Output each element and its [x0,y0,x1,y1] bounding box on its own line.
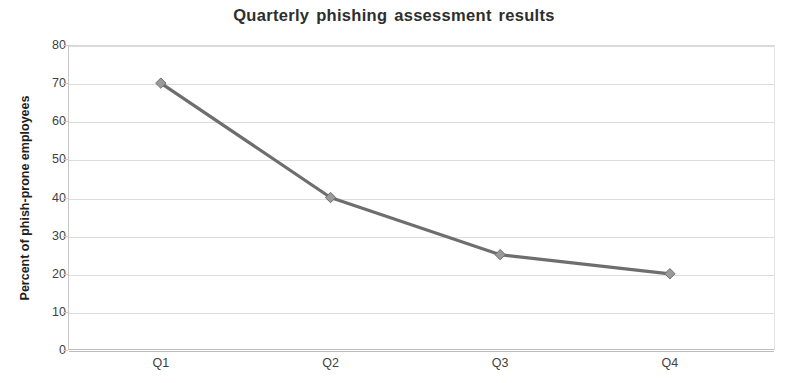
gridline-0 [69,351,774,352]
gridline-50 [69,160,774,161]
y-tick-mark-30 [63,236,68,237]
y-tick-mark-60 [63,121,68,122]
y-tick-label-80: 80 [6,38,66,52]
x-tick-label-q2: Q2 [296,356,366,370]
y-tick-label-70: 70 [6,76,66,90]
y-tick-label-60: 60 [6,114,66,128]
y-tick-mark-20 [63,274,68,275]
x-tick-label-q1: Q1 [126,356,196,370]
y-tick-label-40: 40 [6,191,66,205]
y-tick-label-20: 20 [6,267,66,281]
gridlines [69,46,774,349]
x-tick-label-q3: Q3 [465,356,535,370]
gridline-80 [69,46,774,47]
gridline-20 [69,275,774,276]
chart-container: Quarterly phishing assessment results Pe… [0,0,788,383]
y-tick-label-0: 0 [6,343,66,357]
x-tick-label-q4: Q4 [635,356,705,370]
y-tick-label-50: 50 [6,152,66,166]
y-tick-mark-80 [63,45,68,46]
y-tick-label-10: 10 [6,305,66,319]
y-tick-mark-10 [63,312,68,313]
gridline-10 [69,313,774,314]
gridline-40 [69,199,774,200]
y-tick-mark-40 [63,198,68,199]
y-tick-mark-0 [63,350,68,351]
gridline-30 [69,237,774,238]
chart-title: Quarterly phishing assessment results [0,6,788,25]
gridline-70 [69,84,774,85]
y-tick-mark-50 [63,159,68,160]
gridline-60 [69,122,774,123]
y-tick-mark-70 [63,83,68,84]
y-tick-label-30: 30 [6,229,66,243]
plot-area [68,45,775,350]
